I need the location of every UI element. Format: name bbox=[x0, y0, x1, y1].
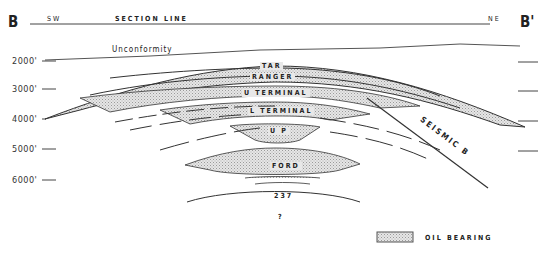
depth-6000: 6000' bbox=[12, 175, 37, 185]
unit-ford: FORD bbox=[270, 162, 302, 170]
section-start-label: B bbox=[8, 13, 18, 31]
unit-unknown: ? bbox=[276, 213, 286, 221]
section-title: SECTION LINE bbox=[115, 15, 188, 23]
unit-ranger: RANGER bbox=[250, 73, 295, 81]
section-end-label: B' bbox=[520, 13, 534, 31]
unit-l-terminal: L TERMINAL bbox=[248, 107, 314, 115]
legend-label: OIL BEARING bbox=[425, 234, 493, 242]
unit-up: U P bbox=[268, 127, 290, 135]
direction-ne: NE bbox=[488, 15, 501, 23]
unit-237: 237 bbox=[272, 192, 295, 200]
unit-tar: TAR bbox=[260, 62, 283, 70]
unit-u-terminal: U TERMINAL bbox=[242, 89, 310, 97]
direction-sw: SW bbox=[47, 15, 61, 23]
depth-5000: 5000' bbox=[12, 144, 37, 154]
depth-2000: 2000' bbox=[12, 56, 37, 66]
depth-3000: 3000' bbox=[12, 84, 37, 94]
unconformity-label: Unconformity bbox=[112, 45, 173, 54]
depth-4000: 4000' bbox=[12, 114, 37, 124]
legend-swatch bbox=[377, 232, 413, 242]
